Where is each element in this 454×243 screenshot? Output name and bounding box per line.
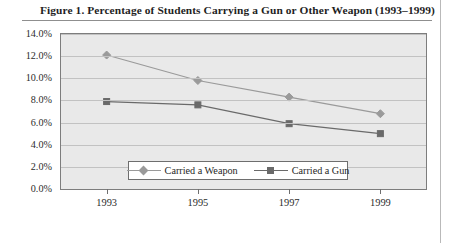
diamond-marker bbox=[127, 166, 161, 175]
caption-divider-rule bbox=[22, 20, 432, 21]
gridline bbox=[61, 56, 426, 57]
legend-item: Carried a Gun bbox=[254, 165, 350, 176]
chart-legend: Carried a WeaponCarried a Gun bbox=[128, 161, 348, 180]
legend-item: Carried a Weapon bbox=[127, 165, 238, 176]
y-axis-tick-label: 12.0% bbox=[0, 51, 52, 61]
x-axis-tick-label: 1999 bbox=[350, 197, 410, 208]
legend-item-label: Carried a Gun bbox=[292, 165, 350, 176]
square-marker bbox=[377, 131, 383, 137]
x-axis-tick-mark bbox=[289, 189, 290, 194]
y-axis-tick-label: 0.0% bbox=[0, 184, 52, 194]
square-marker bbox=[267, 167, 274, 174]
gridline bbox=[61, 145, 426, 146]
series-1 bbox=[103, 51, 385, 118]
diamond-marker bbox=[376, 110, 384, 118]
square-marker bbox=[254, 166, 288, 175]
y-axis-tick-label: 4.0% bbox=[0, 140, 52, 150]
gridline bbox=[61, 34, 426, 35]
series-line bbox=[107, 55, 381, 114]
x-axis-tick-mark bbox=[198, 189, 199, 194]
gridline bbox=[61, 100, 426, 101]
x-axis-tick-label: 1997 bbox=[259, 197, 319, 208]
square-marker bbox=[195, 102, 201, 108]
x-axis-tick-label: 1993 bbox=[77, 197, 137, 208]
line-chart: 0.0%2.0%4.0%6.0%8.0%10.0%12.0%14.0% 1993… bbox=[0, 26, 440, 226]
x-axis-tick-mark bbox=[107, 189, 108, 194]
y-axis-tick-label: 8.0% bbox=[0, 95, 52, 105]
x-axis-tick-label: 1995 bbox=[168, 197, 228, 208]
diamond-marker bbox=[138, 166, 148, 176]
y-axis-tick-label: 14.0% bbox=[0, 29, 52, 39]
y-axis-tick-label: 2.0% bbox=[0, 162, 52, 172]
page-edge-rule bbox=[440, 0, 441, 243]
gridline bbox=[61, 78, 426, 79]
y-axis-tick-label: 6.0% bbox=[0, 118, 52, 128]
series-2 bbox=[104, 99, 384, 137]
gridline bbox=[61, 123, 426, 124]
legend-item-label: Carried a Weapon bbox=[165, 165, 238, 176]
x-axis-tick-mark bbox=[380, 189, 381, 194]
page-title: Figure 1. Percentage of Students Carryin… bbox=[40, 4, 434, 16]
y-axis-tick-label: 10.0% bbox=[0, 73, 52, 83]
